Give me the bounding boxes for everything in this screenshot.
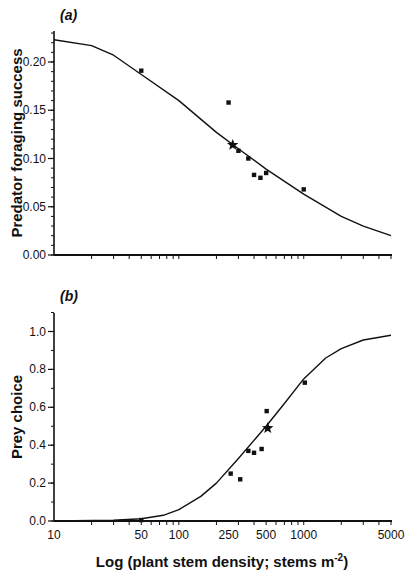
x-axis-title: Log (plant stem density; stems m-2) — [96, 552, 348, 570]
data-point-square — [228, 471, 232, 475]
data-point-star — [262, 422, 273, 433]
y-tick-label: 0.2 — [29, 476, 46, 490]
x-tick-label: 10 — [47, 528, 61, 542]
x-tick-label: 50 — [135, 528, 149, 542]
panel-a-data-points — [139, 68, 306, 191]
data-point-square — [238, 477, 242, 481]
fitted-curve-line — [54, 335, 391, 521]
data-point-square — [139, 518, 143, 522]
y-tick-label: 0.4 — [29, 438, 46, 452]
data-point-square — [226, 100, 230, 104]
data-point-square — [139, 68, 143, 72]
x-tick-label: 100 — [169, 528, 189, 542]
data-point-square — [264, 409, 268, 413]
x-tick-label: 5000 — [378, 528, 405, 542]
fitted-curve-line — [54, 40, 391, 236]
y-tick-label: 0.0 — [29, 514, 46, 528]
data-point-square — [246, 156, 250, 160]
panel-b: (b) Prey choice 0.00.20.40.60.81.0 10501… — [8, 288, 405, 542]
panel-b-axes: 0.00.20.40.60.81.0 — [29, 313, 392, 528]
x-axis-tick-labels: 105010025050010005000 — [47, 528, 404, 542]
y-tick-label: 0.00 — [23, 248, 47, 262]
y-tick-label: 1.0 — [29, 325, 46, 339]
y-tick-label: 0.6 — [29, 400, 46, 414]
data-point-square — [264, 171, 268, 175]
y-tick-label: 0.8 — [29, 362, 46, 376]
data-point-square — [302, 187, 306, 191]
panel-b-data-points — [139, 380, 307, 522]
panel-a-label: (a) — [60, 7, 77, 23]
data-point-square — [258, 176, 262, 180]
panel-b-y-axis-title: Prey choice — [8, 375, 25, 459]
panel-b-fitted-curve — [54, 335, 391, 521]
x-tick-label: 1000 — [290, 528, 317, 542]
data-point-square — [252, 173, 256, 177]
data-point-square — [236, 149, 240, 153]
figure: (a) Predator foraging success 0.000.050.… — [0, 0, 412, 577]
data-point-square — [259, 447, 263, 451]
x-tick-label: 500 — [256, 528, 276, 542]
panel-a: (a) Predator foraging success 0.000.050.… — [8, 7, 392, 262]
panel-a-axes: 0.000.050.100.150.20 — [23, 31, 392, 262]
y-tick-label: 0.10 — [23, 152, 47, 166]
data-point-square — [252, 451, 256, 455]
y-tick-label: 0.15 — [23, 103, 47, 117]
y-tick-label: 0.05 — [23, 200, 47, 214]
data-point-square — [303, 380, 307, 384]
data-point-square — [246, 449, 250, 453]
y-tick-label: 0.20 — [23, 55, 47, 69]
panel-b-label: (b) — [60, 288, 78, 304]
panel-a-fitted-curve — [54, 40, 391, 236]
x-tick-label: 250 — [219, 528, 239, 542]
